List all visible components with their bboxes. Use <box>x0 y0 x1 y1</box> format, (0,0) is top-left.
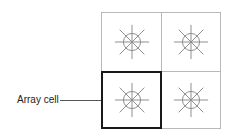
light-burst-icon <box>172 23 210 61</box>
array-grid <box>101 12 221 129</box>
light-burst-icon <box>172 81 210 119</box>
light-burst-icon <box>113 81 151 119</box>
array-cell-r0-c0 <box>101 12 162 72</box>
light-burst-icon <box>113 23 151 61</box>
callout-leader-line <box>60 100 101 101</box>
array-cell-r1-c0-highlighted <box>101 71 162 129</box>
array-cell-r0-c1 <box>161 12 221 72</box>
array-cell-label: Array cell <box>17 94 59 105</box>
array-cell-r1-c1 <box>161 71 221 129</box>
